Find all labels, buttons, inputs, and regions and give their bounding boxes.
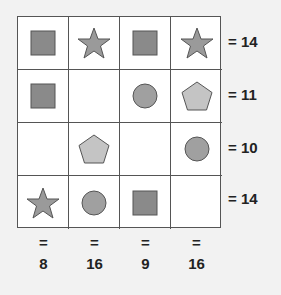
row-sum-3: = 10	[228, 139, 258, 157]
grid-cell-r4-c4	[171, 176, 222, 229]
equals-sign: =	[120, 236, 171, 250]
grid-cell-r3-c2	[69, 123, 120, 176]
circle-icon	[132, 83, 158, 109]
col-sum-value: 9	[120, 254, 171, 274]
circle-icon	[184, 136, 210, 162]
grid-cell-r4-c1	[18, 176, 69, 229]
grid-cell-r4-c2	[69, 176, 120, 229]
grid-cell-r1-c2	[69, 17, 120, 70]
grid-cell-r2-c4	[171, 70, 222, 123]
grid-cell-r3-c3	[120, 123, 171, 176]
row-sum-2: = 11	[228, 86, 257, 104]
square-icon	[30, 30, 56, 56]
col-sum-2: = 16	[69, 236, 120, 274]
equals-sign: =	[171, 236, 222, 250]
col-sum-value: 16	[171, 254, 222, 274]
pentagon-icon	[78, 134, 110, 164]
square-icon	[30, 83, 56, 109]
grid-cell-r2-c1	[18, 70, 69, 123]
grid-cell-r1-c3	[120, 17, 171, 70]
grid-cell-r2-c2	[69, 70, 120, 123]
grid-cell-r4-c3	[120, 176, 171, 229]
grid-cell-r3-c1	[18, 123, 69, 176]
square-icon	[132, 30, 158, 56]
star-icon	[77, 27, 111, 59]
col-sum-value: 8	[18, 254, 69, 274]
grid-cell-r2-c3	[120, 70, 171, 123]
row-sum-1: = 14	[228, 33, 258, 51]
grid-cell-r1-c4	[171, 17, 222, 70]
star-icon	[180, 27, 214, 59]
equals-sign: =	[69, 236, 120, 250]
square-icon	[132, 190, 158, 216]
puzzle-grid	[17, 16, 221, 228]
equals-sign: =	[18, 236, 69, 250]
col-sum-value: 16	[69, 254, 120, 274]
star-icon	[26, 187, 60, 219]
col-sum-3: = 9	[120, 236, 171, 274]
pentagon-icon	[181, 81, 213, 111]
col-sum-4: = 16	[171, 236, 222, 274]
circle-icon	[81, 190, 107, 216]
row-sum-4: = 14	[228, 190, 258, 208]
grid-cell-r3-c4	[171, 123, 222, 176]
col-sum-1: = 8	[18, 236, 69, 274]
grid-cell-r1-c1	[18, 17, 69, 70]
